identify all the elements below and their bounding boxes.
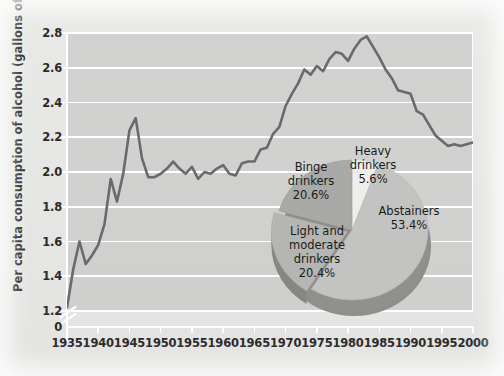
y-tick-label: 1.6 — [16, 235, 62, 249]
x-tick-label: 1975 — [301, 336, 332, 350]
pie-label-line: 20.6% — [268, 188, 354, 202]
x-tick — [285, 326, 287, 333]
x-tick-label: 1940 — [83, 336, 114, 350]
y-tick-label-zero: 0 — [16, 320, 62, 334]
x-tick-label: 1955 — [176, 336, 207, 350]
pie-slice-label-heavy: Heavy drinkers 5.6% — [334, 144, 412, 186]
y-tick-label: 2.0 — [16, 165, 62, 179]
x-tick — [379, 326, 381, 333]
x-tick-label: 1990 — [395, 336, 426, 350]
x-tick — [254, 326, 256, 333]
pie-label-line: 53.4% — [366, 218, 452, 232]
x-tick — [316, 326, 318, 333]
pie-label-line: Heavy — [334, 144, 412, 158]
x-tick-label: 1985 — [364, 336, 395, 350]
x-tick-label: 1970 — [270, 336, 301, 350]
x-tick-label: 1965 — [239, 336, 270, 350]
pie-label-line: moderate — [272, 238, 362, 252]
x-tick — [410, 326, 412, 333]
pie-label-line: 5.6% — [334, 172, 412, 186]
x-tick — [66, 326, 68, 333]
y-tick-label: 1.8 — [16, 200, 62, 214]
pie-label-line: Light and — [272, 224, 362, 238]
x-tick — [129, 326, 131, 333]
pie-slice-label-abstainers: Abstainers 53.4% — [366, 204, 452, 232]
x-tick — [160, 326, 162, 333]
x-tick — [347, 326, 349, 333]
pie-slice-label-light-moderate: Light and moderate drinkers 20.4% — [272, 224, 362, 280]
x-tick — [441, 326, 443, 333]
y-tick-label: 2.6 — [16, 61, 62, 75]
pie-label-line: drinkers — [272, 252, 362, 266]
x-tick-label: 1995 — [426, 336, 457, 350]
y-tick-label: 1.2 — [16, 304, 62, 318]
x-tick-label: 1935 — [51, 336, 82, 350]
inset-pie-chart: Abstainers 53.4% Light and moderate drin… — [268, 148, 454, 326]
pie-label-line: drinkers — [334, 158, 412, 172]
x-tick-label: 2000 — [457, 336, 488, 350]
x-tick — [97, 326, 99, 333]
x-tick-label: 1950 — [145, 336, 176, 350]
y-tick-label: 2.4 — [16, 96, 62, 110]
x-axis-line — [66, 326, 474, 328]
y-tick-label: 2.8 — [16, 26, 62, 40]
x-tick-label: 1960 — [208, 336, 239, 350]
x-tick — [191, 326, 193, 333]
x-tick — [222, 326, 224, 333]
y-tick-labels: 2.82.62.42.22.01.81.61.41.20 — [8, 0, 62, 376]
y-tick-label: 1.4 — [16, 269, 62, 283]
pie-label-line: Abstainers — [366, 204, 452, 218]
x-tick-label: 1980 — [332, 336, 363, 350]
pie-label-line: 20.4% — [272, 266, 362, 280]
y-tick-label: 2.2 — [16, 130, 62, 144]
alcohol-consumption-figure: Per capita consumption of alcohol (gallo… — [0, 0, 504, 376]
x-tick-label: 1945 — [114, 336, 145, 350]
x-tick — [472, 326, 474, 333]
